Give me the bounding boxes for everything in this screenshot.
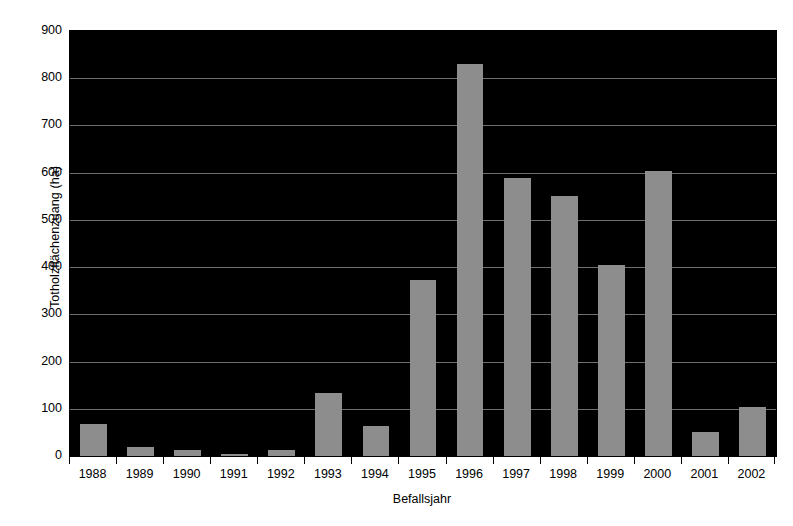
x-axis-tick-labels: 1988198919901991199219931994199519961997… <box>69 468 775 482</box>
y-axis-tick-label: 600 <box>26 165 62 178</box>
bar-chart: Totholzflächenzuang (ha) 010020030040050… <box>0 0 793 526</box>
x-axis-tick-marks <box>69 456 775 464</box>
y-axis-tick-label: 900 <box>26 24 62 37</box>
y-axis-tick-label: 500 <box>26 213 62 226</box>
x-axis-tick-label: 1992 <box>257 468 304 482</box>
bar[interactable] <box>739 407 766 456</box>
y-axis-tick-label: 400 <box>26 260 62 273</box>
y-axis-tick-label: 700 <box>26 118 62 131</box>
x-axis-tick-label: 1997 <box>493 468 540 482</box>
bar[interactable] <box>551 196 578 456</box>
x-axis-tick-cell <box>634 456 681 464</box>
bar-slot <box>258 31 305 456</box>
y-axis-tick-label: 100 <box>26 402 62 415</box>
bars-layer <box>70 31 776 456</box>
x-axis-tick-label: 1998 <box>540 468 587 482</box>
x-axis-tick-mark <box>257 456 258 464</box>
x-axis-tick-label: 1991 <box>210 468 257 482</box>
x-axis-tick-label: 2000 <box>634 468 681 482</box>
bar-slot <box>305 31 352 456</box>
x-axis-tick-cell <box>446 456 493 464</box>
x-axis-tick-label: 1990 <box>163 468 210 482</box>
x-axis-tick-cell <box>681 456 728 464</box>
y-axis-tick-label: 800 <box>26 71 62 84</box>
y-axis-tick-labels: 0100200300400500600700800900 <box>26 30 62 455</box>
x-axis-tick-mark <box>587 456 588 464</box>
bar-slot <box>729 31 776 456</box>
x-axis-tick-mark <box>163 456 164 464</box>
x-axis-tick-cell <box>116 456 163 464</box>
bar[interactable] <box>457 64 484 456</box>
bar-slot <box>447 31 494 456</box>
bar[interactable] <box>127 447 154 456</box>
bar-slot <box>211 31 258 456</box>
bar[interactable] <box>315 393 342 456</box>
x-axis-tick-mark <box>69 456 70 464</box>
y-axis-tick-label: 200 <box>26 354 62 367</box>
bar[interactable] <box>598 265 625 456</box>
x-axis-tick-label: 1989 <box>116 468 163 482</box>
x-axis-title: Befallsjahr <box>69 492 775 506</box>
x-axis-tick-cell <box>257 456 304 464</box>
x-axis-tick-label: 1988 <box>69 468 116 482</box>
x-axis-tick-label: 1995 <box>398 468 445 482</box>
bar[interactable] <box>692 432 719 456</box>
x-axis-tick-mark <box>634 456 635 464</box>
x-axis-tick-cell <box>587 456 634 464</box>
x-axis-tick-mark <box>398 456 399 464</box>
x-axis-tick-cell <box>493 456 540 464</box>
bar-slot <box>541 31 588 456</box>
x-axis-tick-label: 1999 <box>587 468 634 482</box>
x-axis-tick-mark <box>681 456 682 464</box>
bar-slot <box>635 31 682 456</box>
bar[interactable] <box>645 171 672 456</box>
x-axis-tick-mark <box>304 456 305 464</box>
x-axis-tick-mark <box>540 456 541 464</box>
y-axis-tick-label: 0 <box>26 449 62 462</box>
x-axis-tick-mark <box>351 456 352 464</box>
bar[interactable] <box>504 178 531 456</box>
x-axis-tick-mark <box>116 456 117 464</box>
bar-slot <box>70 31 117 456</box>
x-axis-tick-mark <box>210 456 211 464</box>
x-axis-tick-cell <box>540 456 587 464</box>
bar-slot <box>494 31 541 456</box>
x-axis-tick-label: 2002 <box>728 468 775 482</box>
x-axis-tick-label: 1996 <box>446 468 493 482</box>
x-axis-tick-cell <box>728 456 775 464</box>
bar[interactable] <box>80 424 107 456</box>
bar-slot <box>117 31 164 456</box>
bar[interactable] <box>363 426 390 456</box>
x-axis-tick-cell <box>210 456 257 464</box>
x-axis-tick-label: 2001 <box>681 468 728 482</box>
bar-slot <box>588 31 635 456</box>
x-axis-tick-mark-end <box>774 456 775 464</box>
plot-area <box>69 30 777 457</box>
y-axis-tick-label: 300 <box>26 307 62 320</box>
x-axis-tick-cell <box>398 456 445 464</box>
bar-slot <box>352 31 399 456</box>
bar[interactable] <box>410 280 437 456</box>
x-axis-tick-cell <box>69 456 116 464</box>
bar-slot <box>164 31 211 456</box>
x-axis-tick-cell <box>163 456 210 464</box>
x-axis-tick-mark <box>728 456 729 464</box>
x-axis-tick-label: 1994 <box>351 468 398 482</box>
x-axis-tick-mark <box>446 456 447 464</box>
x-axis-tick-mark <box>493 456 494 464</box>
x-axis-tick-cell <box>351 456 398 464</box>
x-axis-tick-cell <box>304 456 351 464</box>
bar-slot <box>399 31 446 456</box>
bar-slot <box>682 31 729 456</box>
x-axis-tick-label: 1993 <box>304 468 351 482</box>
